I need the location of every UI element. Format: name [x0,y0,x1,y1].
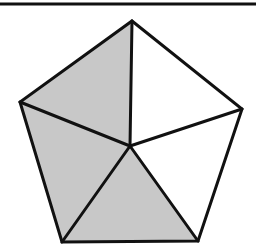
pentagon-diagram [0,0,256,252]
spoke-line-top [130,21,132,146]
